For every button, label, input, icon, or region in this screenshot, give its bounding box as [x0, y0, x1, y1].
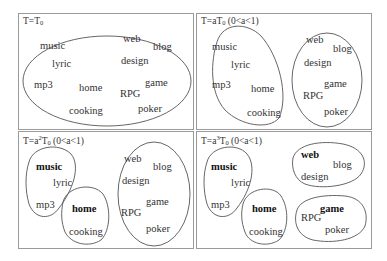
word-web: web	[306, 35, 324, 46]
word-cooking: cooking	[249, 227, 283, 238]
word-poker: poker	[138, 104, 162, 115]
word-game: game	[146, 197, 169, 208]
word-design: design	[304, 58, 331, 69]
word-music: music	[40, 41, 65, 52]
word-RPG: RPG	[301, 213, 321, 224]
word-RPG: RPG	[120, 89, 140, 100]
word-RPG: RPG	[121, 208, 141, 219]
word-music: music	[212, 42, 237, 53]
word-game: game	[145, 78, 168, 89]
word-lyric: lyric	[52, 59, 71, 70]
word-lyric: lyric	[231, 178, 250, 189]
word-cooking: cooking	[247, 108, 281, 119]
panel-title: T=a3T0 (0<a<1)	[201, 134, 262, 146]
word-lyric: lyric	[231, 60, 250, 71]
word-home: home	[251, 84, 274, 95]
word-music-head: music	[36, 162, 62, 173]
panel-at0: T=aT0 (0<a<1) music lyric mp3 home cooki…	[196, 13, 372, 130]
word-mp3: mp3	[212, 80, 231, 91]
word-blog: blog	[333, 160, 352, 171]
word-blog: blog	[153, 42, 172, 53]
panel-a3t0: T=a3T0 (0<a<1) music lyric mp3 home cook…	[196, 131, 372, 249]
word-home: home	[79, 83, 102, 94]
word-design: design	[121, 56, 148, 67]
word-mp3: mp3	[211, 200, 230, 211]
word-lyric: lyric	[53, 178, 72, 189]
word-home-head: home	[252, 204, 277, 215]
panel-a2t0: T=a2T0 (0<a<1) music lyric mp3 home cook…	[18, 131, 194, 249]
word-poker: poker	[325, 225, 349, 236]
panel-title: T=T0	[23, 16, 43, 26]
word-web: web	[123, 34, 141, 45]
panel-t0: T=T0 music lyric mp3 home cooking web bl…	[18, 13, 194, 130]
word-blog: blog	[333, 44, 352, 55]
word-blog: blog	[153, 162, 172, 173]
panel-title: T=a2T0 (0<a<1)	[23, 134, 84, 146]
word-mp3: mp3	[34, 80, 53, 91]
word-web-head: web	[301, 150, 319, 161]
word-mp3: mp3	[36, 200, 55, 211]
word-design: design	[301, 172, 328, 183]
word-RPG: RPG	[303, 91, 323, 102]
panel-title: T=aT0 (0<a<1)	[201, 16, 259, 26]
word-cooking: cooking	[69, 106, 103, 117]
word-home-head: home	[72, 204, 97, 215]
word-music-head: music	[211, 162, 237, 173]
word-web: web	[124, 154, 142, 165]
word-game-head: game	[320, 204, 344, 215]
word-design: design	[122, 176, 149, 187]
cluster-outline	[19, 14, 195, 131]
word-poker: poker	[324, 107, 348, 118]
word-poker: poker	[146, 224, 170, 235]
word-cooking: cooking	[69, 227, 103, 238]
word-game: game	[324, 79, 347, 90]
